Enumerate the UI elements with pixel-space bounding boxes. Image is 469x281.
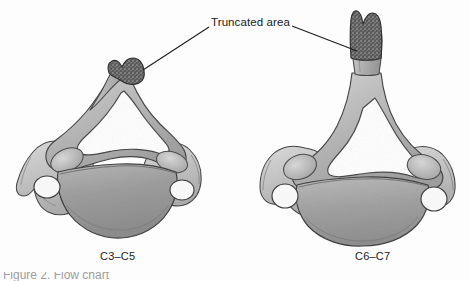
vertebrae-illustration <box>0 0 469 281</box>
figure-caption-text: Figure 2. Flow chart <box>3 272 109 281</box>
figure-caption-clipped: Figure 2. Flow chart <box>0 272 469 281</box>
leader-line-left <box>143 27 209 70</box>
left-vertebra-transverse-foramen-left <box>34 176 60 198</box>
right-vertebra-body <box>296 177 429 246</box>
right-vertebra-transverse-foramen-left <box>272 184 298 208</box>
left-vertebra-group <box>16 58 201 238</box>
right-vertebra-group <box>260 11 455 246</box>
specimen-caption-left: C3–C5 <box>100 250 135 262</box>
left-vertebra-body <box>58 164 178 238</box>
callout-label-truncated-area: Truncated area <box>211 16 290 28</box>
leader-line-right <box>292 26 357 51</box>
specimen-caption-right: C6–C7 <box>355 250 390 262</box>
left-vertebra-transverse-foramen-right <box>170 180 194 200</box>
right-vertebra-truncated-area <box>350 11 382 60</box>
anatomy-figure: Truncated area C3–C5 C6–C7 Figure 2. Flo… <box>0 0 469 281</box>
right-vertebra-transverse-foramen-right <box>421 187 447 211</box>
